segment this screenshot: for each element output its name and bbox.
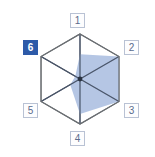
axis-label-2[interactable]: 2 <box>124 40 139 55</box>
radar-widget: 1 2 3 4 5 6 <box>0 0 155 157</box>
axis-label-5[interactable]: 5 <box>23 103 38 118</box>
axis-label-3[interactable]: 3 <box>124 103 139 118</box>
axis-label-1[interactable]: 1 <box>70 13 85 28</box>
axis-label-6[interactable]: 6 <box>23 40 38 55</box>
axis-spoke-6 <box>41 57 80 80</box>
axis-label-4[interactable]: 4 <box>70 131 85 146</box>
center-dot <box>78 77 83 82</box>
